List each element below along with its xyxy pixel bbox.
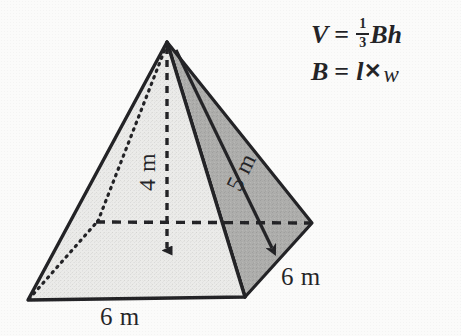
formula-block: V = 1 3 B h B = l ✕ w — [311, 16, 402, 90]
fraction-numerator: 1 — [359, 17, 366, 31]
formula-base-equals: = — [334, 57, 349, 87]
label-height: 4 m — [135, 153, 159, 191]
formula-base-length: l — [356, 57, 363, 87]
pyramid-figure: 6 m 6 m 4 m 5 m V = 1 3 B h B = l ✕ w — [0, 0, 461, 336]
label-base-front: 6 m — [100, 304, 140, 329]
formula-volume-height: h — [388, 20, 402, 50]
formula-volume-base: B — [370, 20, 387, 50]
fraction-denominator: 3 — [359, 36, 366, 50]
formula-volume-lhs: V — [311, 20, 328, 50]
formula-volume-equals: = — [334, 20, 349, 50]
formula-volume: V = 1 3 B h — [311, 16, 402, 53]
label-base-right: 6 m — [281, 264, 321, 289]
multiplication-icon: ✕ — [364, 59, 382, 84]
formula-base-width: w — [383, 62, 398, 88]
formula-volume-fraction: 1 3 — [356, 17, 369, 50]
formula-base-area: B = l ✕ w — [311, 53, 402, 90]
formula-base-lhs: B — [311, 57, 328, 87]
